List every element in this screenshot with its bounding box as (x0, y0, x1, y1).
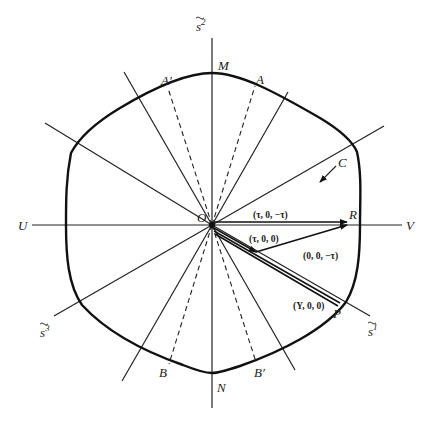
axis-upper-left-30 (45, 123, 212, 225)
label-B-prime: B′ (254, 365, 265, 380)
label-s3: s3 (40, 323, 50, 340)
label-s2: s2 (196, 17, 206, 34)
label-R: R (348, 207, 357, 222)
label-s1: s1 (368, 322, 378, 339)
label-vector-0-0-minus-tau: (0, 0, −τ) (303, 251, 338, 262)
tilde-marks (40, 17, 376, 325)
label-vector-tau-0-0: (τ, 0, 0) (249, 234, 279, 245)
yield-surface-diagram: s2 s1 s3 U V O M N A A′ B B′ R P C (τ, 0… (0, 0, 434, 426)
label-A: A (255, 72, 264, 87)
label-U: U (18, 218, 29, 233)
dashed-line-A-prime (168, 88, 212, 225)
axis-lower-left-60 (122, 225, 212, 381)
diagram-canvas: s2 s1 s3 U V O M N A A′ B B′ R P C (τ, 0… (0, 0, 434, 426)
axis-upper-left-60 (124, 72, 212, 225)
label-vector-tau-0-minus-tau: (τ, 0, −τ) (253, 210, 288, 221)
label-N: N (216, 380, 227, 395)
axes (32, 38, 402, 408)
label-O: O (197, 210, 207, 225)
vector-Y-0-0-line2 (215, 234, 338, 306)
label-C: C (338, 155, 347, 170)
label-M: M (217, 58, 230, 73)
label-B: B (159, 365, 167, 380)
curve-C-pointer (320, 166, 336, 182)
label-P: P (332, 306, 341, 321)
label-vector-Y-0-0: (Y, 0, 0) (293, 301, 324, 312)
label-V: V (406, 218, 416, 233)
axis-upper-right-60 (212, 92, 288, 225)
label-A-prime: A′ (160, 73, 172, 88)
origin-point (209, 222, 215, 228)
